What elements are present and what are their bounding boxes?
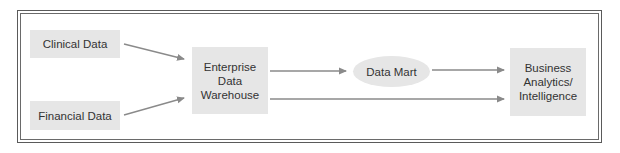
node-clinical-data: Clinical Data: [30, 30, 120, 58]
node-financial-data: Financial Data: [30, 101, 120, 130]
node-label: Business Analytics/ Intelligence: [519, 61, 577, 103]
node-label: Financial Data: [38, 109, 112, 123]
node-business-analytics-intelligence: Business Analytics/ Intelligence: [510, 48, 586, 116]
node-data-mart: Data Mart: [353, 56, 430, 87]
arrow-financial-to-edw: [124, 98, 184, 115]
node-label: Clinical Data: [43, 37, 108, 51]
node-label: Data Mart: [366, 65, 417, 79]
arrow-clinical-to-edw: [124, 44, 184, 59]
node-label: Enterprise Data Warehouse: [201, 60, 259, 102]
node-enterprise-data-warehouse: Enterprise Data Warehouse: [192, 47, 268, 114]
